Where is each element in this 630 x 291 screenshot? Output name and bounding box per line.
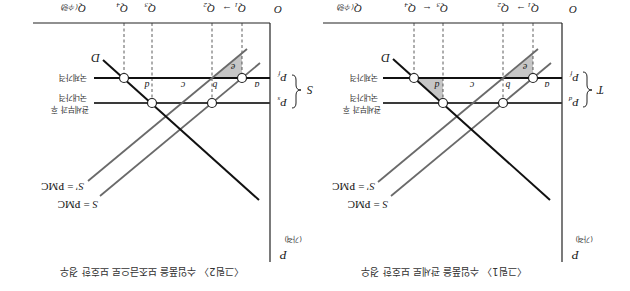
world-price-symbol: Pf (277, 70, 288, 84)
supply-shifted-label: S' = PMC (332, 181, 375, 193)
point-q1 (529, 74, 538, 83)
area-label-a: a (545, 80, 550, 91)
q-subscript: 1 (235, 1, 239, 9)
price-subscript: f (569, 70, 572, 78)
x-axis-symbol: Q (354, 3, 362, 15)
area-label-b: b (213, 80, 218, 91)
domestic-price-text-line1: 관세부과 후 (51, 105, 89, 115)
q-symbol: Q (148, 3, 156, 15)
q2-label: Q2 (203, 1, 215, 15)
point-q3 (148, 99, 157, 108)
x-axis-symbol: Q (78, 3, 86, 15)
x-axis-unit: (수량) (336, 3, 354, 11)
x-axis-title: Q(수량) (60, 3, 86, 15)
supply-shifted-label: S' = PMC (41, 181, 84, 193)
y-axis-symbol: P (279, 248, 288, 262)
q1-label: Q1 (528, 1, 539, 15)
arrow-q4-to-q3-icon: ← (422, 4, 432, 15)
q-symbol: Q (238, 3, 246, 15)
price-subscript: d (568, 95, 572, 103)
q-symbol: Q (440, 3, 448, 15)
figure-caption: 〈그림2〉 수입품을 보조금으로 보호한 경우 (60, 266, 243, 278)
point-q1 (238, 74, 247, 83)
y-axis-symbol: P (571, 248, 580, 262)
world-price-text: 국제가격 (59, 73, 87, 83)
point-q4 (410, 74, 419, 83)
domestic-price-text-line2: 국내가격 (350, 93, 378, 103)
supply-shifted-equation: = PMC (332, 181, 367, 193)
subsidy-gap-label: S (307, 83, 313, 97)
q-symbol: Q (501, 3, 509, 15)
point-q2 (208, 99, 217, 108)
q-subscript: 3 (436, 1, 441, 9)
subsidy-price-symbol: Ps (277, 95, 288, 109)
domestic-price-symbol: Pd (568, 95, 580, 109)
area-label-e: e (522, 62, 527, 73)
area-label-d: d (144, 80, 150, 91)
domestic-price-text-line1: 관세부과 후 (343, 105, 381, 115)
y-axis-unit: (가격) (575, 235, 593, 244)
demand-label: D (91, 51, 101, 65)
figure-2-subsidy: 〈그림2〉 수입품을 보조금으로 보호한 경우 a b c d e D S = … (33, 1, 313, 278)
arrow-q1-to-q2-icon: → (222, 4, 232, 15)
diagram-canvas: 〈그림1〉 수입품을 관세로 보호한 경우 a b c d e D S = P (0, 0, 630, 291)
q-symbol: Q (120, 3, 128, 15)
q1-label: Q1 (235, 1, 246, 15)
figure-1-tariff: 〈그림1〉 수입품을 관세로 보호한 경우 a b c d e D S = P (323, 1, 604, 278)
arrow-q1-to-q2-icon: → (516, 4, 526, 15)
point-q3 (439, 99, 448, 108)
world-price-symbol: Pf (569, 70, 580, 84)
point-q4 (120, 74, 129, 83)
area-label-c: c (469, 80, 474, 91)
world-price-text: 국제가격 (350, 73, 378, 83)
y-axis-unit: (가격) (284, 235, 302, 244)
origin-label: O (569, 4, 577, 16)
area-label-b: b (506, 80, 511, 91)
area-label-a: a (255, 80, 260, 91)
q2-label: Q2 (497, 1, 509, 15)
supply-equation: = PMC (348, 199, 383, 211)
demand-label: D (381, 51, 391, 65)
q-subscript: 2 (497, 1, 501, 9)
supply-equation: = PMC (58, 199, 93, 211)
price-subscript: s (277, 95, 280, 103)
x-axis-title: Q(수량) (336, 3, 362, 15)
figure-caption: 〈그림1〉 수입품을 관세로 보호한 경우 (361, 266, 526, 278)
supply-curve-s-prime (378, 49, 538, 182)
supply-label: S = PMC (58, 199, 98, 211)
origin-label: O (274, 4, 282, 16)
q-subscript: 4 (116, 1, 120, 9)
area-label-c: c (180, 80, 185, 91)
supply-shifted-equation: = PMC (41, 181, 76, 193)
q-subscript: 3 (144, 1, 149, 9)
subsidy-brace-icon (292, 75, 301, 108)
q-subscript: 2 (203, 1, 207, 9)
q-subscript: 4 (404, 1, 408, 9)
tariff-gap-label: T (596, 83, 604, 97)
diagram-svg: 〈그림1〉 수입품을 관세로 보호한 경우 a b c d e D S = P (0, 0, 630, 291)
tariff-brace-icon (583, 72, 592, 107)
x-axis-unit: (수량) (60, 3, 78, 11)
price-subscript: f (277, 70, 280, 78)
q3-label: Q3 (144, 1, 156, 15)
q4-label: Q4 (404, 1, 416, 15)
q-symbol: Q (408, 3, 416, 15)
rotated-page: 〈그림1〉 수입품을 관세로 보호한 경우 a b c d e D S = P (33, 1, 604, 278)
point-q2 (499, 99, 508, 108)
q-subscript: 1 (528, 1, 532, 9)
domestic-price-text-line2: 국내가격 (59, 93, 87, 103)
supply-label: S = PMC (348, 199, 388, 211)
q-symbol: Q (531, 3, 539, 15)
q4-label: Q4 (116, 1, 128, 15)
q-symbol: Q (207, 3, 215, 15)
area-label-e: e (230, 62, 235, 73)
q3-label: Q3 (436, 1, 448, 15)
